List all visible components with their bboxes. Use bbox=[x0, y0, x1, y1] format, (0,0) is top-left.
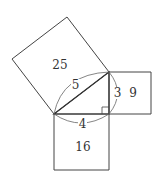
pythagorean-diagram: 5 3 4 25 9 16 bbox=[0, 0, 161, 184]
vertical-leg-square-area: 9 bbox=[129, 86, 137, 100]
horizontal-leg-label: 4 bbox=[79, 117, 87, 131]
hypotenuse-label: 5 bbox=[72, 78, 80, 92]
right-angle-mark bbox=[102, 107, 109, 114]
hypotenuse-square-area: 25 bbox=[52, 58, 67, 72]
horizontal-leg-square-area: 16 bbox=[75, 140, 90, 154]
vertical-leg-label: 3 bbox=[114, 86, 122, 100]
